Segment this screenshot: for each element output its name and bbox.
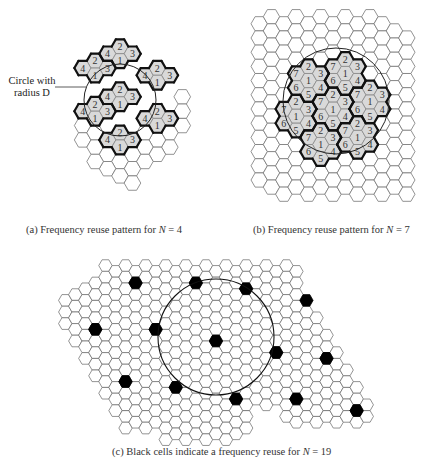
cell-label: 1 [118, 142, 123, 153]
cell-label: 4 [142, 113, 147, 124]
cell-label: 5 [355, 146, 360, 157]
cell-label: 1 [118, 55, 123, 66]
cell-label: 6 [294, 82, 299, 93]
hex-cell [137, 154, 154, 168]
panel-c-n19-pattern [59, 260, 374, 446]
cell-label: 4 [306, 118, 311, 129]
callout-line-1: Circle with [4, 75, 60, 87]
cell-label: 3 [130, 48, 135, 59]
hex-cell [124, 176, 141, 190]
caption-c-var: N [303, 446, 310, 457]
cell-label: 3 [167, 113, 172, 124]
panel-b-n7-pattern: 1234567123456712345671234567123456712345… [251, 10, 415, 202]
cell-label: 5 [306, 89, 311, 100]
cell-label: 3 [105, 63, 110, 74]
cell-label: 7 [294, 68, 299, 79]
hex-cell-reuse-black [149, 324, 162, 336]
cell-label: 5 [318, 153, 323, 164]
hex-cell-reuse-black [89, 324, 102, 336]
cell-label: 4 [105, 48, 110, 59]
cell-label: 4 [105, 91, 110, 102]
hex-cell-reuse-black [229, 393, 242, 405]
hex-cell [239, 422, 252, 434]
hex-cell [399, 130, 415, 144]
cell-label: 1 [93, 113, 98, 124]
hex-cell [350, 382, 363, 394]
cell-label: 3 [318, 68, 323, 79]
hex-cell [399, 173, 415, 187]
cell-label: 2 [331, 89, 336, 100]
cell-label: 4 [355, 75, 360, 86]
circle-radius-callout: Circle with radius D [4, 75, 60, 99]
cell-label: 4 [80, 63, 85, 74]
hex-cell [290, 266, 303, 278]
cell-label: 3 [130, 134, 135, 145]
cell-label: 2 [367, 82, 372, 93]
caption-a-text: (a) Frequency reuse pattern for [26, 224, 159, 235]
hex-cell-reuse-black [350, 405, 363, 417]
hex-cell [399, 145, 415, 159]
cell-label: 2 [155, 63, 160, 74]
hex-cell [239, 411, 252, 423]
cell-label: 7 [318, 96, 323, 107]
cell-label: 4 [105, 134, 110, 145]
cell-label: 3 [343, 96, 348, 107]
hex-cell [399, 187, 415, 201]
hex-cell-reuse-black [119, 376, 132, 388]
hex-cell-reuse-black [129, 277, 142, 289]
callout-line-2: radius D [4, 87, 60, 99]
cell-label: 3 [331, 132, 336, 143]
caption-c-text: (c) Black cells indicate a frequency reu… [112, 446, 303, 457]
cell-label: 3 [355, 61, 360, 72]
cell-label: 5 [343, 82, 348, 93]
cell-label: 2 [118, 41, 123, 52]
cell-label: 2 [118, 127, 123, 138]
cell-label: 3 [167, 70, 172, 81]
cell-label: 7 [331, 61, 336, 72]
cell-label: 2 [306, 61, 311, 72]
hex-cell-reuse-black [300, 295, 313, 307]
cell-label: 7 [343, 125, 348, 136]
hex-cell [399, 59, 415, 73]
hex-cell [310, 312, 323, 324]
cell-label: 5 [367, 111, 372, 122]
caption-c: (c) Black cells indicate a frequency reu… [112, 446, 331, 457]
cell-label: 7 [355, 89, 360, 100]
caption-a-var: N [159, 224, 166, 235]
cell-label: 4 [331, 146, 336, 157]
caption-b-text: (b) Frequency reuse pattern for [253, 224, 386, 235]
cell-label: 1 [155, 77, 160, 88]
cell-label: 1 [294, 111, 299, 122]
cell-label: 6 [318, 111, 323, 122]
cell-label: 3 [306, 104, 311, 115]
cell-label: 2 [93, 99, 98, 110]
cell-label: 6 [355, 104, 360, 115]
caption-b: (b) Frequency reuse pattern for N = 7 [253, 224, 410, 235]
cell-label: 1 [343, 68, 348, 79]
cell-label: 4 [318, 82, 323, 93]
hex-cell [290, 277, 303, 289]
cell-label: 1 [155, 120, 160, 131]
hex-cell [174, 90, 191, 104]
cell-label: 3 [367, 125, 372, 136]
hex-cell [87, 154, 104, 168]
caption-c-suffix: = 19 [310, 446, 332, 457]
cell-label: 1 [367, 96, 372, 107]
cell-label: 2 [343, 54, 348, 65]
cell-label: 3 [380, 89, 385, 100]
cell-label: 2 [93, 55, 98, 66]
cell-label: 6 [343, 139, 348, 150]
cell-label: 2 [355, 118, 360, 129]
cell-label: 2 [318, 125, 323, 136]
cell-label: 1 [331, 104, 336, 115]
hex-cell [399, 116, 415, 130]
hex-cell [399, 73, 415, 87]
hex-cell [399, 88, 415, 102]
cell-label: 1 [306, 75, 311, 86]
cell-label: 1 [318, 139, 323, 150]
cell-label: 6 [331, 75, 336, 86]
cell-label: 4 [380, 104, 385, 115]
caption-a-suffix: = 4 [166, 224, 182, 235]
cell-label: 5 [331, 118, 336, 129]
hex-cell-reuse-black [290, 393, 303, 405]
